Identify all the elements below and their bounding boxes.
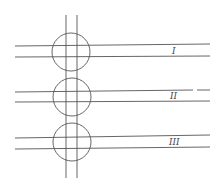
crossing-circle [53,78,91,116]
crossing-label: I [171,46,176,56]
horizontal-line-bottom [15,101,210,102]
crossing-II: II [15,78,210,116]
horizontal-line-top [15,90,193,92]
crossing-III: III [15,123,210,161]
crossing-circle [52,33,90,71]
crossing-label: III [168,137,180,147]
horizontal-line-top [15,44,210,46]
horizontal-line-bottom [15,56,210,57]
crossing-diagram: I II III [0,0,222,191]
horizontal-line-top [15,135,210,138]
crossing-circle [53,123,91,161]
crossing-I: I [15,33,210,71]
crossing-label: II [169,91,178,101]
horizontal-line-bottom [15,147,210,149]
